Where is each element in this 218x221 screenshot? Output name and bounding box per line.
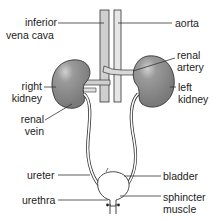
label-line: inferior — [6, 16, 57, 28]
label-inferior-vena-cava: inferior — [6, 16, 57, 28]
label-sphincter-muscle: sphincter muscle — [163, 191, 206, 215]
label-line: kidney — [178, 93, 208, 105]
inferior-vena-cava-vessel — [100, 10, 109, 102]
label-line: left — [178, 81, 208, 93]
label-line: kidney — [0, 92, 42, 104]
label-line: artery — [177, 61, 204, 73]
label-aorta: aorta — [175, 17, 199, 29]
right-kidney-organ — [52, 60, 90, 108]
sphincter-muscle-dot — [106, 204, 109, 207]
label-ureter: ureter — [27, 169, 54, 181]
label-line: vein — [10, 125, 44, 137]
label-renal-artery: renal artery — [177, 49, 204, 73]
label-urethra: urethra — [22, 194, 55, 206]
label-right-kidney: right kidney — [0, 80, 42, 104]
label-line: renal — [10, 113, 44, 125]
label-renal-vein: renal vein — [10, 113, 44, 137]
label-line: muscle — [163, 203, 206, 215]
label-bladder: bladder — [163, 170, 198, 182]
aorta-vessel — [114, 10, 121, 102]
label-inferior-vena-cava-line2: vena cava — [6, 29, 54, 41]
left-kidney-organ — [133, 56, 174, 107]
label-line: right — [0, 80, 42, 92]
label-line: renal — [177, 49, 204, 61]
urinary-system-diagram: inferior vena cava aorta renal artery ri… — [0, 0, 218, 221]
label-left-kidney: left kidney — [178, 81, 208, 105]
bladder-organ — [98, 172, 129, 206]
label-line: sphincter — [163, 191, 206, 203]
